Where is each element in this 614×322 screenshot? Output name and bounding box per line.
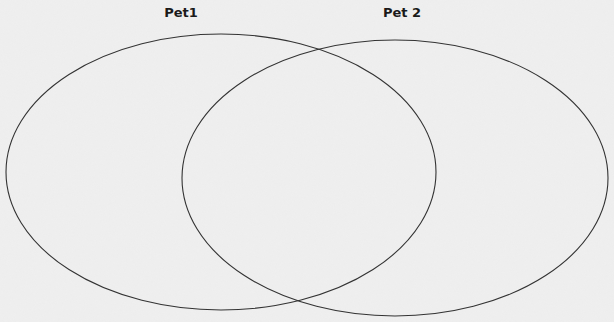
- paper-texture: [0, 0, 614, 322]
- set-label-pet2: Pet 2: [383, 5, 421, 20]
- set-label-pet1: Pet1: [164, 5, 198, 20]
- venn-shapes: [0, 0, 614, 322]
- venn-diagram: Pet1 Pet 2: [0, 0, 614, 322]
